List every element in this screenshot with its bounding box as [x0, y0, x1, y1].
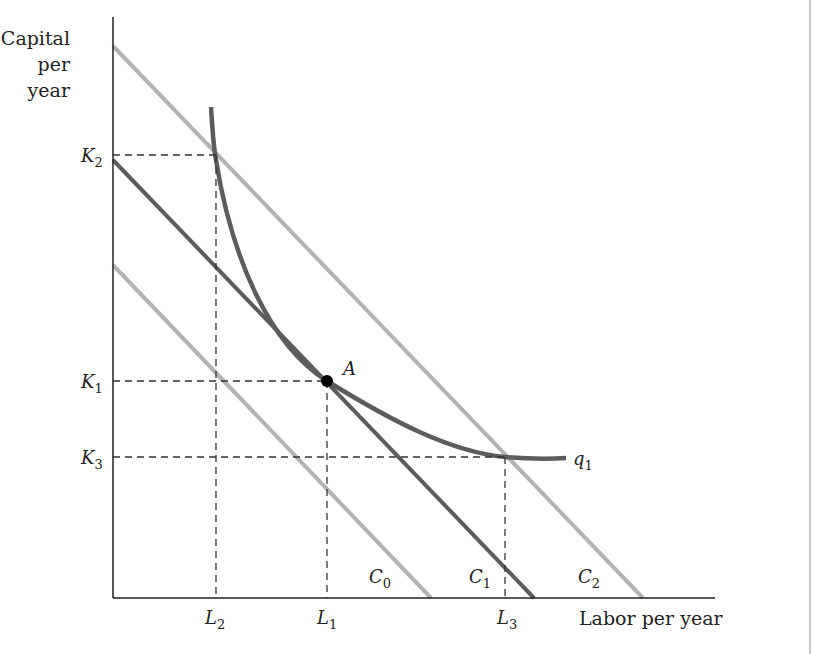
y-tick-k3: K3	[80, 447, 103, 472]
x-tick-l3: L3	[496, 607, 517, 632]
c-label: C	[469, 566, 483, 587]
l-subscript: 2	[217, 617, 225, 632]
label-q1: q1	[573, 448, 593, 473]
point-a-label: A	[341, 358, 356, 379]
svg-text:L1: L1	[316, 607, 337, 632]
svg-text:C1: C1	[469, 566, 491, 591]
y-axis-title-line1: Capital	[1, 27, 70, 49]
svg-text:C2: C2	[578, 566, 600, 591]
l-subscript: 3	[509, 617, 517, 632]
isocost-line-c0	[113, 265, 431, 598]
y-axis-title-line2: per	[38, 53, 71, 75]
c-subscript: 0	[383, 576, 391, 591]
label-c1: C1	[469, 566, 491, 591]
k-subscript: 3	[94, 457, 102, 472]
svg-text:q1: q1	[573, 448, 593, 473]
x-axis-title: Labor per year	[579, 607, 724, 629]
page-edge-divider	[809, 0, 811, 654]
c-subscript: 1	[483, 576, 491, 591]
k-subscript: 1	[94, 381, 102, 396]
c-subscript: 2	[592, 576, 600, 591]
q-subscript: 1	[585, 458, 593, 473]
x-tick-l1: L1	[316, 607, 337, 632]
isocost-line-c2	[113, 46, 643, 598]
y-tick-k1: K1	[80, 371, 103, 396]
x-tick-l2: L2	[204, 607, 225, 632]
q-label: q	[573, 448, 585, 469]
svg-text:C0: C0	[369, 566, 391, 591]
c-label: C	[578, 566, 592, 587]
k-subscript: 2	[94, 155, 102, 170]
isoquant-curve-q1	[211, 107, 566, 459]
l-label: L	[316, 607, 329, 628]
label-c0: C0	[369, 566, 391, 591]
l-subscript: 1	[329, 617, 337, 632]
svg-text:L2: L2	[204, 607, 225, 632]
c-label: C	[369, 566, 383, 587]
y-tick-k2: K2	[80, 145, 103, 170]
y-axis-title-line3: year	[27, 79, 71, 101]
l-label: L	[496, 607, 509, 628]
svg-text:K2: K2	[80, 145, 103, 170]
l-label: L	[204, 607, 217, 628]
svg-text:K3: K3	[80, 447, 103, 472]
cost-minimization-chart: A Capital per year K2 K1 K3 L2 L1 L3 Lab…	[0, 0, 814, 654]
svg-text:L3: L3	[496, 607, 517, 632]
tangency-point-a	[321, 375, 333, 387]
svg-text:K1: K1	[80, 371, 103, 396]
label-c2: C2	[578, 566, 600, 591]
